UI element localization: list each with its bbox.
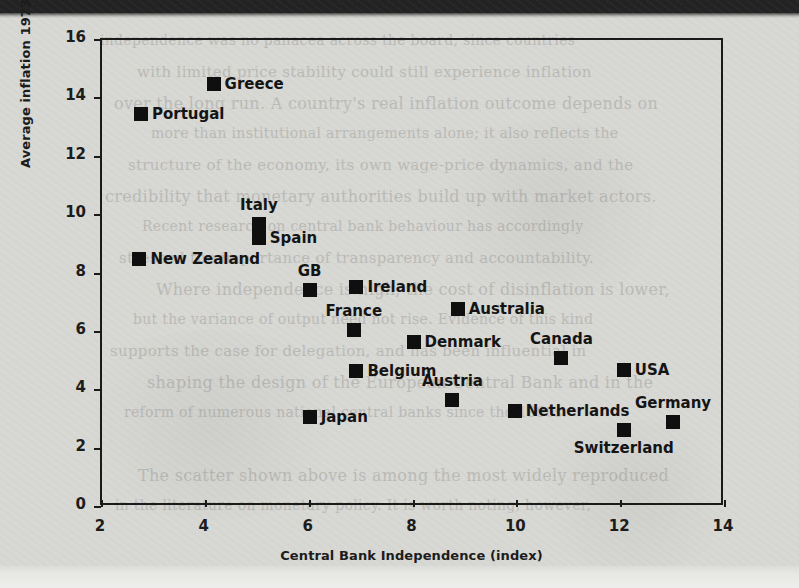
x-tick-mark — [101, 500, 103, 507]
data-point-marker[interactable] — [303, 410, 317, 424]
y-tick-label: 12 — [65, 147, 86, 162]
data-point-label: Italy — [240, 198, 278, 213]
data-point-label: New Zealand — [150, 251, 260, 266]
y-tick-mark — [94, 39, 101, 41]
data-point-marker[interactable] — [617, 363, 631, 377]
y-tick-mark — [94, 389, 101, 391]
data-point-marker[interactable] — [666, 415, 680, 429]
data-point-label: Austria — [422, 374, 483, 389]
data-point-marker[interactable] — [132, 252, 146, 266]
data-point-marker[interactable] — [349, 280, 363, 294]
x-tick-mark — [413, 500, 415, 507]
scatter-chart: GreecePortugalItalySpainNew ZealandGBIre… — [0, 0, 799, 588]
y-tick-mark — [94, 448, 101, 450]
y-tick-label: 10 — [65, 205, 86, 220]
y-tick-label: 4 — [76, 380, 86, 395]
y-tick-label: 16 — [65, 30, 86, 45]
x-tick-mark — [620, 500, 622, 507]
data-point-marker[interactable] — [508, 404, 522, 418]
data-point-label: Ireland — [367, 279, 427, 294]
y-tick-mark — [94, 331, 101, 333]
data-point-label: Greece — [225, 76, 284, 91]
data-point-marker[interactable] — [554, 351, 568, 365]
x-tick-label: 12 — [599, 519, 639, 534]
x-tick-label: 14 — [703, 519, 743, 534]
data-point-label: GB — [298, 264, 322, 279]
y-axis-title: Average inflation 1973–1996 (%) — [18, 0, 33, 168]
y-tick-mark — [94, 273, 101, 275]
data-point-marker[interactable] — [134, 107, 148, 121]
x-tick-mark — [205, 500, 207, 507]
x-tick-label: 4 — [184, 519, 224, 534]
data-point-label: Portugal — [152, 107, 225, 122]
data-point-marker[interactable] — [451, 302, 465, 316]
plot-frame: GreecePortugalItalySpainNew ZealandGBIre… — [100, 38, 723, 505]
x-tick-mark — [516, 500, 518, 507]
x-tick-label: 10 — [495, 519, 535, 534]
scanned-page: independence was no panacea across the b… — [0, 0, 799, 588]
data-point-marker[interactable] — [445, 393, 459, 407]
data-point-label: Australia — [469, 301, 545, 316]
y-tick-mark — [94, 97, 101, 99]
x-tick-label: 6 — [288, 519, 328, 534]
data-point-label: Denmark — [425, 335, 501, 350]
y-tick-label: 8 — [76, 264, 86, 279]
data-point-label: France — [326, 304, 383, 319]
data-point-marker[interactable] — [349, 364, 363, 378]
data-point-label: Netherlands — [526, 403, 630, 418]
y-tick-label: 6 — [76, 322, 86, 337]
data-point-label: Spain — [270, 231, 317, 246]
x-axis-title: Central Bank Independence (index) — [100, 548, 723, 563]
x-tick-mark — [724, 500, 726, 507]
y-tick-label: 2 — [76, 439, 86, 454]
data-point-marker[interactable] — [617, 423, 631, 437]
y-tick-label: 0 — [76, 497, 86, 512]
y-tick-mark — [94, 156, 101, 158]
y-tick-mark — [94, 214, 101, 216]
x-tick-mark — [309, 500, 311, 507]
x-tick-label: 8 — [392, 519, 432, 534]
data-point-label: Germany — [635, 396, 711, 411]
data-point-marker[interactable] — [407, 335, 421, 349]
data-point-marker[interactable] — [207, 77, 221, 91]
data-point-marker[interactable] — [347, 323, 361, 337]
y-tick-label: 14 — [65, 88, 86, 103]
x-tick-label: 2 — [80, 519, 120, 534]
data-point-label: USA — [635, 362, 670, 377]
data-point-marker[interactable] — [252, 217, 266, 231]
y-tick-mark — [94, 506, 101, 508]
data-point-label: Japan — [321, 409, 368, 424]
data-point-label: Canada — [530, 332, 593, 347]
data-point-marker[interactable] — [303, 283, 317, 297]
data-point-label: Switzerland — [574, 441, 674, 456]
data-point-marker[interactable] — [252, 231, 266, 245]
